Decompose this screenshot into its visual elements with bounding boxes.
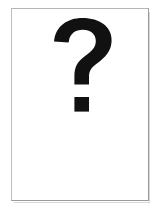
placeholder-frame xyxy=(11,8,149,201)
placeholder-image-canvas xyxy=(0,0,160,216)
question-mark-icon xyxy=(51,14,119,116)
frame-shadow-right xyxy=(149,12,150,202)
frame-shadow-bottom xyxy=(14,202,150,203)
